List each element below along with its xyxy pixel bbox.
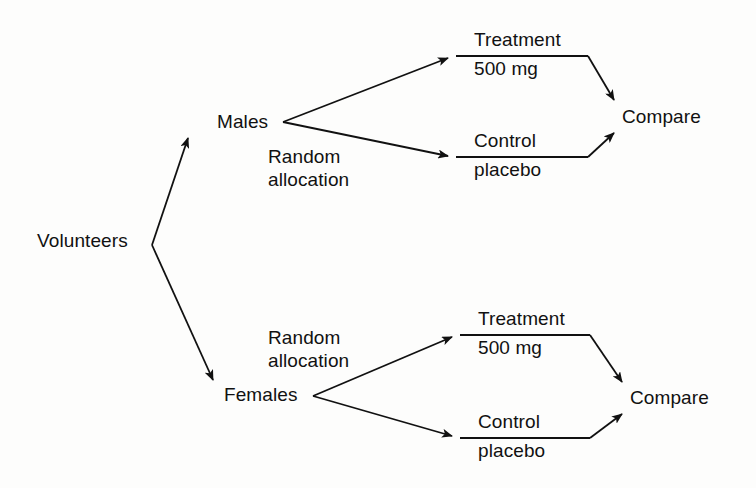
node-females: Females (224, 384, 298, 406)
node-males: Males (217, 111, 268, 133)
edge-females-to-control (313, 396, 452, 436)
label-males-random-allocation-line1: Random (268, 145, 349, 168)
label-females-random-allocation-line2: allocation (268, 349, 349, 372)
edge-males-control-to-compare (588, 133, 614, 157)
edge-volunteers-to-females (152, 245, 213, 380)
label-females-random-allocation-line1: Random (268, 326, 349, 349)
node-volunteers: Volunteers (37, 230, 128, 252)
node-females-control-title: Control (478, 411, 540, 433)
edge-volunteers-to-males (152, 138, 188, 245)
edge-females-control-to-compare (590, 414, 622, 438)
trial-flow-diagram: Volunteers Males Random allocation Treat… (0, 0, 756, 488)
node-females-compare: Compare (630, 387, 709, 409)
edge-males-treatment-to-compare (588, 56, 614, 100)
node-males-control-title: Control (474, 130, 536, 152)
node-females-treatment-dose: 500 mg (478, 337, 542, 359)
node-males-control-type: placebo (474, 159, 541, 181)
node-males-compare: Compare (622, 106, 701, 128)
node-males-treatment-dose: 500 mg (474, 58, 538, 80)
label-females-random-allocation: Random allocation (268, 326, 349, 372)
edge-males-to-treatment (283, 58, 448, 122)
label-males-random-allocation-line2: allocation (268, 168, 349, 191)
node-males-treatment-title: Treatment (474, 29, 561, 51)
edge-females-treatment-to-compare (590, 335, 622, 382)
label-males-random-allocation: Random allocation (268, 145, 349, 191)
node-females-control-type: placebo (478, 440, 545, 462)
node-females-treatment-title: Treatment (478, 308, 565, 330)
